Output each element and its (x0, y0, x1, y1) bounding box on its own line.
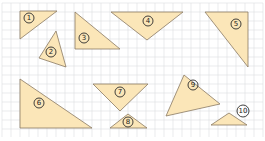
triangle-5: 5 (205, 12, 248, 67)
triangle-shape (205, 12, 248, 67)
triangle-1: 1 (20, 11, 57, 39)
triangle-9: 9 (166, 75, 220, 116)
triangle-grid-diagram: 12345678910 (0, 0, 265, 141)
triangle-label: 2 (49, 48, 53, 56)
triangle-label: 7 (118, 88, 122, 96)
triangle-label: 6 (37, 99, 42, 107)
triangle-3: 3 (75, 12, 120, 49)
triangle-label: 1 (27, 14, 31, 22)
triangle-label: 9 (191, 81, 195, 89)
triangle-figure: 12345678910 (0, 0, 265, 141)
triangle-8: 8 (110, 114, 147, 128)
triangle-label: 4 (146, 17, 151, 25)
triangle-label: 5 (234, 20, 238, 28)
triangle-4: 4 (111, 12, 183, 40)
triangle-10: 10 (211, 105, 249, 125)
triangle-2: 2 (39, 31, 66, 67)
triangle-shape (75, 12, 120, 49)
triangle-label: 3 (82, 34, 86, 42)
triangle-label: 8 (126, 118, 130, 126)
triangle-shape (20, 11, 57, 39)
triangles-layer: 12345678910 (20, 11, 249, 128)
triangle-label: 10 (239, 107, 248, 115)
